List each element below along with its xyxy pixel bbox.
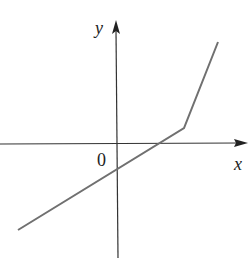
- graph: y x 0: [0, 0, 249, 260]
- x-axis-label: x: [233, 154, 242, 174]
- x-axis-arrow-icon: [234, 139, 248, 147]
- origin-label: 0: [97, 150, 106, 170]
- x-axis: [0, 143, 240, 144]
- y-axis-label: y: [93, 18, 103, 38]
